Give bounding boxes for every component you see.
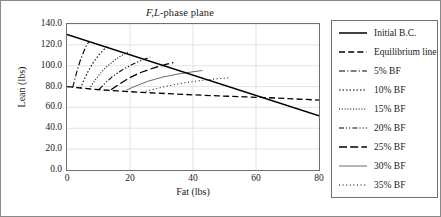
legend-item[interactable]: 30% BF [338, 159, 436, 173]
series-line [126, 71, 202, 91]
legend-swatch [338, 179, 368, 191]
legend-item[interactable]: 25% BF [338, 140, 436, 154]
legend-swatch [338, 122, 368, 134]
chart-title: F,L-phase plane [45, 7, 315, 19]
legend-item[interactable]: 5% BF [338, 64, 436, 78]
legend-label: 20% BF [374, 123, 405, 134]
legend-label: 25% BF [374, 142, 405, 153]
series-line [111, 63, 173, 90]
legend-item[interactable]: 20% BF [338, 121, 436, 135]
legend-swatch [338, 46, 368, 58]
plot-svg [67, 24, 319, 170]
y-tick-label: 40.0 [20, 122, 62, 132]
x-tick-label: 60 [251, 173, 261, 184]
legend-swatch [338, 160, 368, 172]
legend-swatch [338, 103, 368, 115]
y-tick-label: 80.0 [20, 81, 62, 91]
x-tick-label: 20 [125, 173, 135, 184]
legend-label: 30% BF [374, 161, 405, 172]
series-line [146, 78, 229, 91]
legend-label: 35% BF [374, 180, 405, 191]
legend-swatch [338, 84, 368, 96]
y-tick-label: 100.0 [20, 60, 62, 70]
legend-item[interactable]: Initial B.C. [338, 26, 436, 40]
legend-label: 15% BF [374, 104, 405, 115]
x-tick-label: 80 [314, 173, 324, 184]
x-axis-tick-labels: 020406080 [66, 173, 320, 187]
legend-item[interactable]: Equilibrium line [338, 45, 436, 59]
figure-frame: F,L-phase plane Lean (lbs) 0.020.040.060… [0, 0, 441, 217]
plot-area [66, 23, 320, 171]
y-tick-label: 20.0 [20, 143, 62, 153]
chart-title-italic: F,L [146, 7, 160, 18]
y-tick-label: 60.0 [20, 101, 62, 111]
x-tick-label: 40 [188, 173, 198, 184]
legend-box: Initial B.C.Equilibrium line5% BF10% BF1… [331, 20, 438, 198]
y-axis-tick-labels: 0.020.040.060.080.0100.0120.0140.0 [18, 23, 62, 171]
legend-label: Initial B.C. [374, 28, 417, 39]
legend-swatch [338, 141, 368, 153]
series-line [80, 46, 108, 88]
legend-swatch [338, 27, 368, 39]
series-line [73, 42, 89, 88]
chart-panel: F,L-phase plane Lean (lbs) 0.020.040.060… [5, 3, 325, 216]
legend-label: 10% BF [374, 85, 405, 96]
legend-item[interactable]: 10% BF [338, 83, 436, 97]
y-tick-label: 0.0 [20, 164, 62, 174]
x-axis-title: Fat (lbs) [66, 186, 320, 198]
legend-item[interactable]: 35% BF [338, 178, 436, 192]
x-tick-label: 0 [65, 173, 70, 184]
y-tick-label: 120.0 [20, 39, 62, 49]
series-line [99, 57, 150, 89]
legend-label: 5% BF [374, 66, 401, 77]
chart-title-rest: -phase plane [160, 7, 214, 18]
legend-item[interactable]: 15% BF [338, 102, 436, 116]
y-tick-label: 140.0 [20, 18, 62, 28]
legend-label: Equilibrium line [374, 47, 437, 58]
legend-swatch [338, 65, 368, 77]
